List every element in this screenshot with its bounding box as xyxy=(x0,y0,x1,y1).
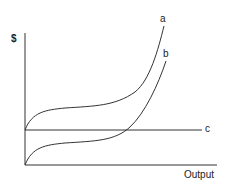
curve-b-label: b xyxy=(163,49,169,59)
curve-a-label: a xyxy=(160,14,166,24)
curve-b xyxy=(25,61,166,165)
curve-a xyxy=(25,26,164,130)
chart-canvas xyxy=(0,0,234,192)
y-axis-label: $ xyxy=(11,34,17,44)
curve-c-label: c xyxy=(205,124,210,134)
x-axis-label: Output xyxy=(184,170,214,180)
